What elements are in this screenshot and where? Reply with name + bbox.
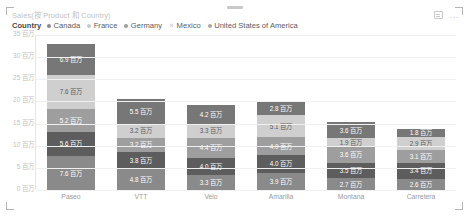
bar-segment-value-label: 3.9 百万 [270,177,293,186]
x-axis-tick-label: Montana [338,193,364,200]
bar-segment[interactable]: 3.1 百万 [397,150,445,164]
gridline [36,146,456,147]
bar-segment-value-label: 1.8 百万 [410,129,433,137]
gridline [36,190,456,191]
bar-segment[interactable]: 3.4 百万 [397,163,445,178]
stacked-bar-column[interactable]: 3.6 百万1.9 百万3.6 百万3.5 百万2.7 百万 [327,122,375,190]
bar-segment-value-label: 3.8 百万 [130,156,153,165]
bar-segment[interactable]: 5.1 百万 [257,115,305,138]
plot-area: 6.9 百万7.6 百万5.2 百万5.6 百万7.6 百万5.5 百万3.2 … [36,35,456,190]
bar-segment[interactable]: 4.4 百万 [187,138,235,157]
bar-segment[interactable]: 2.7 百万 [327,178,375,190]
bar-segment-value-label: 2.7 百万 [340,180,363,189]
bar-segment[interactable]: 4.8 百万 [117,169,165,190]
bar-segment-value-label: 2.6 百万 [410,180,433,189]
page-title: Sales(按 Product 和 Country) [12,9,111,20]
legend-label: Germany [131,21,162,30]
gridline [36,35,456,36]
selection-corner-bottom-left [6,202,14,210]
gridline [36,101,456,102]
stacked-bar-column[interactable]: 4.2 百万3.3 百万4.4 百万4.0 百万3.3 百万 [187,105,235,190]
y-axis-tick-label: 5 百万 [17,161,34,170]
legend-item-mexico[interactable]: Mexico [169,21,201,30]
bar-segment[interactable]: 3.9 百万 [257,173,305,190]
y-axis-tick-label: 10 百万 [13,139,34,148]
focus-mode-icon[interactable] [434,11,443,19]
y-axis-tick-label: 15 百万 [13,117,34,126]
bar-segment[interactable]: 3.6 百万 [327,122,375,138]
chart-visual-container[interactable]: Sales(按 Product 和 Country) ... Country C… [6,7,463,210]
bar-segment[interactable]: 4.2 百万 [187,105,235,124]
bar-segment-value-label: 7.6 百万 [60,87,83,96]
y-axis-tick-label: 25 百万 [13,73,34,82]
legend-label: Mexico [177,21,201,30]
bar-segment-value-label: 3.3 百万 [200,178,223,187]
bar-segment[interactable]: 5.6 百万 [47,132,95,157]
bar-segment[interactable]: 5.2 百万 [47,109,95,132]
bar-segment-value-label: 3.2 百万 [130,126,153,135]
bar-segment[interactable]: 3.2 百万 [117,124,165,138]
bar-segment-value-label: 3.3 百万 [200,126,223,135]
gridline [36,79,456,80]
gridline [36,124,456,125]
y-axis-tick-label: 20 百万 [13,95,34,104]
legend-label: Canada [54,21,81,30]
bar-segment-value-label: 2.8 百万 [270,104,293,113]
bar-segment-value-label: 4.0 百万 [200,162,223,171]
legend-item-france[interactable]: France [87,21,117,30]
bar-segment[interactable]: 3.3 百万 [187,175,235,190]
legend-marker-icon [124,24,128,28]
x-axis-tick-label: Paseo [61,193,80,200]
legend-item-germany[interactable]: Germany [124,21,162,30]
resize-handle-top[interactable] [227,6,243,9]
x-axis-tick-label: Carretera [407,193,436,200]
bar-segment[interactable]: 7.6 百万 [47,156,95,190]
legend-label: United States of America [214,21,298,30]
bar-segment-value-label: 4.2 百万 [200,110,223,119]
bar-segment-value-label: 4.8 百万 [130,175,153,184]
legend-label: France [94,21,118,30]
bar-segment-value-label: 5.5 百万 [130,107,153,116]
visual-header-icons: ... [434,10,459,20]
bar-segment-value-label: 5.6 百万 [60,139,83,148]
legend-item-canada[interactable]: Canada [47,21,80,30]
bar-segment[interactable]: 4.0 百万 [257,155,305,173]
legend-marker-x-icon [169,23,174,28]
bar-segment[interactable]: 2.6 百万 [397,179,445,191]
bar-segment[interactable]: 2.9 百万 [397,137,445,150]
gridline [36,168,456,169]
x-axis-tick-label: Velo [204,193,217,200]
y-axis-tick-label: 30 百万 [13,51,34,60]
x-axis-tick-label: Amarilla [269,193,294,200]
bar-segment-value-label: 3.6 百万 [340,126,363,135]
more-options-icon[interactable]: ... [450,10,459,20]
bar-segment[interactable]: 4.0 百万 [187,158,235,176]
bar-segment-value-label: 3.6 百万 [340,150,363,159]
y-axis-tick-label: 35 百万 [13,29,34,38]
legend-marker-icon [208,24,212,28]
stacked-bar-column[interactable]: 1.8 百万2.9 百万3.1 百万3.4 百万2.6 百万 [397,129,445,190]
legend-marker-icon [47,24,51,28]
stacked-bar-column[interactable]: 5.5 百万3.2 百万3.2 百万3.8 百万4.8 百万 [117,99,165,190]
x-axis-tick-label: VTT [135,193,148,200]
bar-segment[interactable]: 6.9 百万 [47,44,95,75]
y-axis: 0 百万5 百万10 百万15 百万20 百万25 百万30 百万35 百万 [6,33,36,188]
selection-corner-bottom-right [455,202,463,210]
bar-segment[interactable]: 2.8 百万 [257,102,305,114]
bar-segment[interactable]: 3.6 百万 [327,147,375,163]
bar-segment[interactable]: 3.5 百万 [327,163,375,179]
bar-segment[interactable]: 3.8 百万 [117,152,165,169]
bar-segment[interactable]: 3.3 百万 [187,124,235,139]
bar-segment[interactable]: 5.5 百万 [117,99,165,123]
bar-segment-value-label: 7.6 百万 [60,169,83,178]
x-axis: PaseoVTTVeloAmarillaMontanaCarretera [36,193,456,207]
bar-segment-value-label: 3.1 百万 [410,152,433,161]
bar-segment[interactable]: 1.8 百万 [397,129,445,137]
gridline [36,57,456,58]
y-axis-tick-label: 0 百万 [17,184,34,193]
legend-marker-icon [87,24,91,28]
chart-legend: Country Canada France Germany Mexico Uni… [12,21,305,30]
legend-item-united-states-of-america[interactable]: United States of America [208,21,298,30]
